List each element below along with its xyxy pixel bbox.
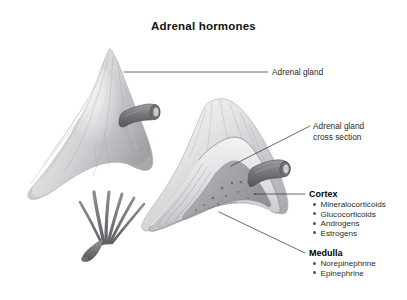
cortex-hormone-item: Mineralocorticoids	[313, 200, 386, 209]
medulla-hormone-item: Epinephrine	[313, 269, 364, 278]
medulla-hormone-label: Epinephrine	[321, 269, 364, 278]
callout-adrenal-gland-label: Adrenal gland	[272, 67, 323, 78]
adrenal-gland-illustration	[0, 0, 407, 300]
bullet-icon	[313, 212, 316, 215]
cortex-hormone-label: Mineralocorticoids	[321, 200, 386, 209]
bullet-icon	[313, 262, 316, 265]
cortex-hormone-item: Androgens	[313, 219, 360, 228]
bullet-icon	[313, 222, 316, 225]
bullet-icon	[313, 271, 316, 274]
bullet-icon	[313, 231, 316, 234]
vessel-branches-left	[80, 192, 144, 244]
cortex-hormone-label: Androgens	[321, 219, 360, 228]
cortex-hormone-item: Estrogens	[313, 229, 357, 238]
cortex-heading: Cortex	[309, 189, 338, 199]
bullet-icon	[313, 203, 316, 206]
cortex-hormone-item: Glucocorticoids	[313, 210, 376, 219]
medulla-hormone-item: Norepinephrine	[313, 259, 376, 268]
cortex-hormone-label: Estrogens	[321, 229, 357, 238]
callout-cross-section-label-line2: cross section	[313, 132, 361, 143]
whole-adrenal-gland-shape	[28, 49, 160, 261]
cortex-hormone-label: Glucocorticoids	[321, 210, 376, 219]
leader-line-medulla	[219, 212, 305, 253]
medulla-hormone-label: Norepinephrine	[321, 259, 376, 268]
page-title: Adrenal hormones	[0, 20, 407, 32]
medulla-heading: Medulla	[309, 248, 343, 258]
adrenal-gland-cross-section-shape	[142, 99, 291, 232]
callout-cross-section-label-line1: Adrenal gland	[313, 121, 364, 132]
